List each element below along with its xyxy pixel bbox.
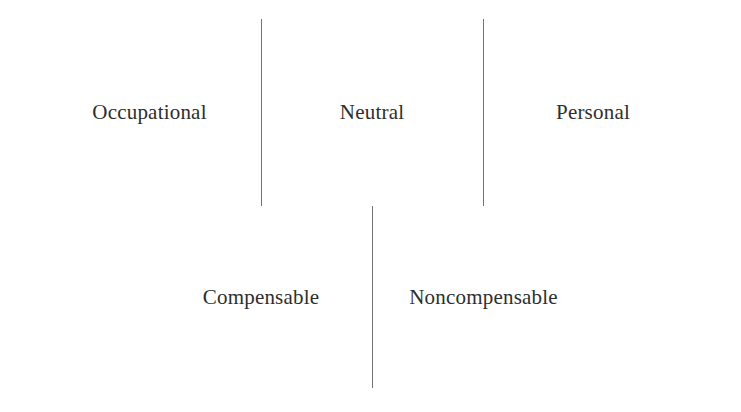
cell-neutral: Neutral <box>261 19 483 206</box>
cell-personal: Personal <box>483 19 703 206</box>
bottom-row-divider-1 <box>372 206 373 388</box>
top-row-divider-1 <box>261 19 262 206</box>
diagram-canvas: Occupational Neutral Personal Compensabl… <box>0 0 741 412</box>
top-row-divider-2 <box>483 19 484 206</box>
cell-label-occupational: Occupational <box>92 102 206 123</box>
cell-label-personal: Personal <box>556 102 630 123</box>
cell-label-neutral: Neutral <box>340 102 404 123</box>
cell-label-noncompensable: Noncompensable <box>409 287 558 308</box>
cell-noncompensable: Noncompensable <box>372 206 595 388</box>
cell-label-compensable: Compensable <box>203 287 320 308</box>
cell-occupational: Occupational <box>38 19 261 206</box>
cell-compensable: Compensable <box>150 206 372 388</box>
